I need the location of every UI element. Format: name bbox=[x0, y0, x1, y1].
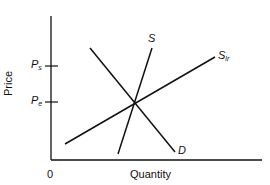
demand-curve bbox=[90, 48, 175, 152]
d-main: D bbox=[178, 144, 186, 156]
d-label: D bbox=[178, 145, 186, 156]
short-run-supply-curve bbox=[118, 48, 152, 154]
y-axis-label: Price bbox=[2, 71, 14, 96]
ps-sub: s bbox=[38, 64, 42, 71]
origin-label: 0 bbox=[47, 169, 53, 180]
supply-demand-diagram bbox=[0, 0, 270, 185]
slr-label: Slr bbox=[218, 50, 229, 62]
pe-sub: e bbox=[38, 100, 42, 107]
s-label: S bbox=[148, 33, 155, 44]
long-run-supply-curve bbox=[65, 57, 215, 144]
pe-label: Pe bbox=[31, 95, 42, 107]
slr-sub: lr bbox=[225, 55, 229, 62]
x-axis-label: Quantity bbox=[130, 169, 171, 180]
ps-label: Ps bbox=[31, 59, 42, 71]
s-main: S bbox=[148, 32, 155, 44]
